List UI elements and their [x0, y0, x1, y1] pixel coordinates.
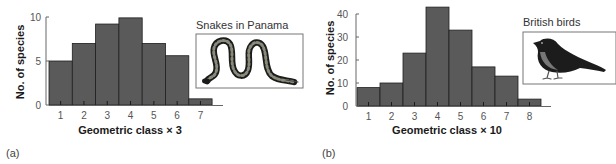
x-tick-label: 4	[128, 110, 134, 121]
bars-group	[49, 18, 212, 105]
x-axis-title: Geometric class × 3	[78, 124, 182, 136]
y-tick-label: 40	[337, 9, 349, 20]
x-tick-label: 5	[458, 111, 464, 122]
inset-title: Snakes in Panama	[196, 19, 289, 31]
y-tick-label: 0	[342, 101, 348, 112]
bars-group	[357, 7, 541, 106]
bar-5	[449, 30, 472, 106]
x-tick-label: 1	[58, 110, 64, 121]
x-tick-label: 1	[366, 111, 372, 122]
y-axis-title: No. of species	[324, 21, 336, 96]
chart-snakes: 0510 1234567 Geometric class × 3 No. of …	[6, 12, 303, 159]
panel-label: (b)	[322, 147, 335, 159]
x-tick-label: 6	[174, 110, 180, 121]
bar-4	[119, 18, 142, 105]
y-tick-label: 10	[30, 12, 42, 23]
x-tick-label: 4	[435, 111, 441, 122]
x-axis-title: Geometric class × 10	[392, 124, 502, 136]
bar-3	[403, 53, 426, 106]
bar-5	[142, 43, 165, 105]
y-axis-title: No. of species	[14, 25, 26, 100]
y-tick-label: 5	[35, 56, 41, 67]
x-tick-label: 6	[481, 111, 487, 122]
bar-4	[426, 7, 449, 106]
figure: 0510 1234567 Geometric class × 3 No. of …	[0, 0, 616, 164]
x-tick-label: 3	[104, 110, 110, 121]
inset-snakes: Snakes in Panama	[196, 19, 303, 88]
inset-birds: British birds	[523, 16, 616, 84]
bar-3	[96, 24, 119, 105]
x-tick-label: 2	[81, 110, 87, 121]
inset-title: British birds	[523, 16, 581, 28]
bar-7	[495, 76, 518, 106]
y-tick-label: 0	[35, 100, 41, 111]
x-tick-label: 3	[412, 111, 418, 122]
x-tick-label: 5	[151, 110, 157, 121]
bar-6	[472, 67, 495, 106]
chart-birds: 010203040 12345678 Geometric class × 10 …	[322, 7, 616, 159]
panel-label: (a)	[6, 147, 19, 159]
bar-1	[49, 61, 72, 105]
x-tick-label: 2	[389, 111, 395, 122]
y-tick-label: 10	[337, 78, 349, 89]
bar-2	[72, 43, 95, 105]
bar-6	[166, 56, 189, 105]
y-tick-label: 20	[337, 55, 349, 66]
x-tick-label: 7	[198, 110, 204, 121]
y-tick-label: 30	[337, 32, 349, 43]
x-tick-label: 7	[504, 111, 510, 122]
x-tick-label: 8	[527, 111, 533, 122]
